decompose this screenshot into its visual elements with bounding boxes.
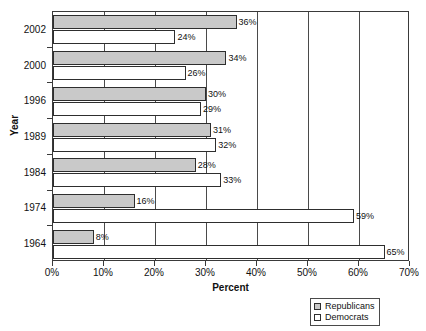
bar-democrats-1984[interactable] [53, 173, 221, 187]
bar-value-label: 59% [354, 211, 374, 221]
x-tick-mark [358, 261, 359, 266]
legend-item-democrats[interactable]: Democrats [314, 312, 375, 323]
x-tick-label-70%: 70% [399, 267, 419, 278]
y-tick-mark [47, 225, 52, 226]
bar-value-label: 30% [206, 89, 226, 99]
bar-row: 30% [53, 87, 410, 101]
bar-value-label: 29% [201, 104, 221, 114]
x-tick-label-30%: 30% [195, 267, 215, 278]
bar-republicans-1964[interactable] [53, 230, 94, 244]
x-tick-label-60%: 60% [348, 267, 368, 278]
y-tick-label-1996: 1996 [0, 95, 52, 106]
bar-democrats-1989[interactable] [53, 138, 216, 152]
y-tick-mark [47, 47, 52, 48]
bar-row: 34% [53, 51, 410, 65]
y-tick-label-1989: 1989 [0, 131, 52, 142]
bar-value-label: 26% [186, 68, 206, 78]
bar-value-label: 34% [226, 53, 246, 63]
x-tick-label-50%: 50% [297, 267, 317, 278]
y-tick-label-1974: 1974 [0, 202, 52, 213]
bar-value-label: 65% [385, 247, 405, 257]
y-tick-label-2000: 2000 [0, 59, 52, 70]
bar-republicans-1989[interactable] [53, 123, 211, 137]
legend-label-democrats: Democrats [325, 312, 369, 323]
bar-value-label: 36% [237, 17, 257, 27]
x-tick-label-40%: 40% [246, 267, 266, 278]
x-axis-label: Percent [52, 282, 409, 293]
legend: Republicans Democrats [310, 298, 380, 326]
y-tick-label-1964: 1964 [0, 238, 52, 249]
bar-row: 28% [53, 158, 410, 172]
x-tick-mark [154, 261, 155, 266]
bar-row: 33% [53, 173, 410, 187]
bar-row: 59% [53, 209, 410, 223]
x-tick-mark [103, 261, 104, 266]
y-tick-mark [47, 118, 52, 119]
x-tick-label-0%: 0% [45, 267, 59, 278]
plot-area: 36%24%34%26%30%29%31%32%28%33%16%59%8%65… [52, 11, 409, 261]
x-tick-mark [256, 261, 257, 266]
x-tick-label-10%: 10% [93, 267, 113, 278]
bar-republicans-2000[interactable] [53, 51, 226, 65]
bar-row: 16% [53, 194, 410, 208]
bar-row: 32% [53, 138, 410, 152]
legend-swatch-democrats [314, 314, 321, 321]
x-tick-mark [307, 261, 308, 266]
x-tick-mark [409, 261, 410, 266]
x-tick-mark [205, 261, 206, 266]
y-tick-mark [47, 190, 52, 191]
bar-row: 29% [53, 102, 410, 116]
bar-democrats-1964[interactable] [53, 245, 385, 259]
bar-republicans-1996[interactable] [53, 87, 206, 101]
x-tick-mark [52, 261, 53, 266]
bar-row: 31% [53, 123, 410, 137]
bar-democrats-1996[interactable] [53, 102, 201, 116]
bar-row: 8% [53, 230, 410, 244]
bar-row: 36% [53, 15, 410, 29]
y-tick-label-2002: 2002 [0, 23, 52, 34]
bar-chart: Year 36%24%34%26%30%29%31%32%28%33%16%59… [0, 0, 426, 331]
bar-value-label: 8% [94, 232, 109, 242]
bar-republicans-1984[interactable] [53, 158, 196, 172]
bar-republicans-1974[interactable] [53, 194, 135, 208]
bar-row: 65% [53, 245, 410, 259]
bar-democrats-1974[interactable] [53, 209, 354, 223]
y-tick-mark [47, 154, 52, 155]
bar-value-label: 24% [175, 32, 195, 42]
bar-democrats-2002[interactable] [53, 30, 175, 44]
bar-value-label: 28% [196, 160, 216, 170]
bar-value-label: 33% [221, 175, 241, 185]
legend-swatch-republicans [314, 303, 321, 310]
bar-row: 24% [53, 30, 410, 44]
legend-label-republicans: Republicans [325, 301, 375, 312]
y-tick-label-1984: 1984 [0, 166, 52, 177]
bar-value-label: 31% [211, 125, 231, 135]
y-tick-mark [47, 82, 52, 83]
bar-republicans-2002[interactable] [53, 15, 237, 29]
bar-value-label: 16% [135, 196, 155, 206]
bar-value-label: 32% [216, 140, 236, 150]
bar-democrats-2000[interactable] [53, 66, 186, 80]
x-tick-label-20%: 20% [144, 267, 164, 278]
bar-row: 26% [53, 66, 410, 80]
legend-item-republicans[interactable]: Republicans [314, 301, 375, 312]
